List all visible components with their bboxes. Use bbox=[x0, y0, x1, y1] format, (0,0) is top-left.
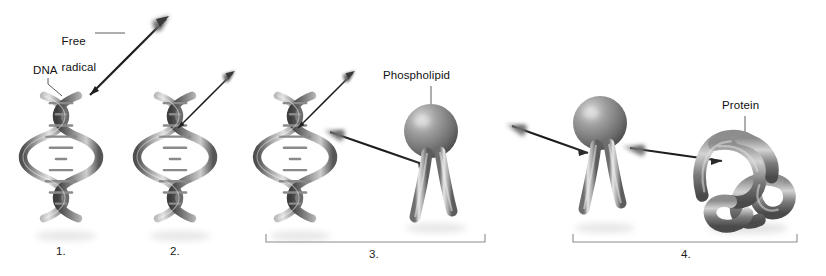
step-number-2: 2. bbox=[170, 245, 180, 257]
panel-2-dna-struck bbox=[137, 70, 236, 241]
span-bracket-icon bbox=[573, 234, 797, 242]
protein-label: Protein bbox=[722, 99, 759, 112]
dna-double-helix-icon bbox=[257, 96, 333, 219]
free-radical-damage-diagram bbox=[0, 0, 826, 276]
free-radical-label-line2: radical bbox=[62, 61, 97, 73]
panel-3-radical-to-phospholipid bbox=[257, 70, 485, 242]
dna-label: DNA bbox=[33, 64, 58, 77]
free-radical-label: Free radical bbox=[55, 22, 96, 74]
step-number-3: 3. bbox=[369, 248, 379, 260]
panel-4-phospholipid-to-protein bbox=[506, 96, 797, 242]
protein-tangle-icon bbox=[700, 136, 790, 226]
free-radical-arrow-icon bbox=[90, 15, 170, 95]
phospholipid-label: Phospholipid bbox=[383, 69, 450, 82]
dna-leader-line bbox=[48, 78, 62, 96]
free-radical-label-line1: Free bbox=[62, 35, 86, 47]
step-number-4: 4. bbox=[681, 248, 691, 260]
dna-double-helix-icon bbox=[137, 96, 213, 219]
panel-1-dna-approach bbox=[23, 15, 170, 241]
dna-double-helix-icon bbox=[23, 96, 99, 219]
step-number-1: 1. bbox=[56, 245, 66, 257]
